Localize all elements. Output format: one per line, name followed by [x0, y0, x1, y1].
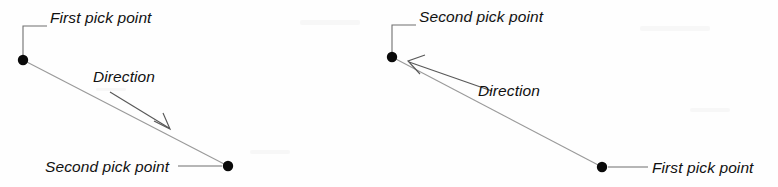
right-first-pick-dot	[597, 162, 607, 172]
right-second-leader-line	[392, 25, 416, 57]
left-first-leader-line	[23, 26, 47, 60]
figure-canvas: First pick point Direction Second pick p…	[0, 0, 778, 187]
left-first-pick-dot	[18, 55, 28, 65]
right-second-pick-point-label: Second pick point	[419, 8, 544, 25]
left-second-pick-dot	[223, 161, 233, 171]
left-first-pick-point-label: First pick point	[50, 9, 152, 26]
right-pick-line	[392, 57, 602, 167]
left-second-pick-point-label: Second pick point	[45, 158, 170, 175]
right-first-pick-point-label: First pick point	[652, 159, 754, 176]
right-diagram: Second pick point Direction First pick p…	[387, 8, 754, 176]
right-second-pick-dot	[387, 52, 397, 62]
scan-artifacts	[60, 16, 730, 172]
left-direction-label: Direction	[93, 68, 155, 85]
right-direction-label: Direction	[478, 82, 540, 99]
pick-point-figure: First pick point Direction Second pick p…	[0, 0, 778, 187]
left-diagram: First pick point Direction Second pick p…	[18, 9, 233, 175]
